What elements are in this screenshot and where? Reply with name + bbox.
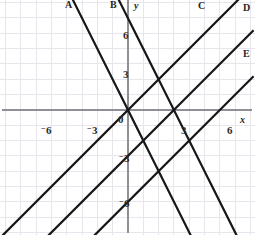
x-tick-label-neg-3: −3: [76, 114, 97, 147]
minus-sign-icon: −: [87, 124, 92, 133]
y-tick-label-neg-3: −3: [108, 142, 129, 175]
line-label-d: D: [243, 3, 250, 13]
x-tick-label-6: 6: [216, 114, 233, 147]
line-label-b: B: [110, 0, 117, 10]
minus-sign-icon: −: [119, 197, 124, 206]
coordinate-graph-figure: 6 3 −3 −6 −6 −3 0 3 6 x y A B C D E: [0, 0, 255, 235]
x-tick-label-3: 3: [170, 114, 187, 147]
y-axis-name-label: y: [134, 1, 138, 11]
line-label-c: C: [198, 1, 205, 11]
minus-sign-icon: −: [41, 124, 46, 133]
x-axis-name-label: x: [240, 115, 245, 125]
minus-sign-icon: −: [119, 152, 124, 161]
origin-label: 0: [118, 114, 124, 125]
y-tick-label-neg-6: −6: [108, 187, 129, 220]
y-tick-label-6: 6: [112, 19, 129, 52]
y-tick-label-3: 3: [112, 58, 129, 91]
line-label-a: A: [65, 0, 72, 10]
line-label-e: E: [243, 49, 250, 59]
x-tick-label-neg-6: −6: [30, 114, 51, 147]
